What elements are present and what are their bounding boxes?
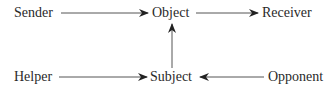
node-object: Object [152,6,189,20]
node-receiver: Receiver [262,6,312,20]
node-opponent: Opponent [268,70,323,84]
node-helper: Helper [14,70,52,84]
node-sender: Sender [14,6,53,20]
actantial-diagram: Sender Object Receiver Helper Subject Op… [0,0,335,90]
node-subject: Subject [150,70,192,84]
